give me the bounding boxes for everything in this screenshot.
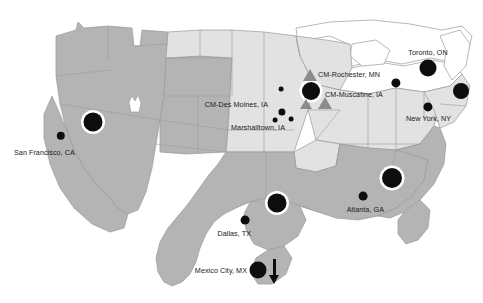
marker-nevada-hub[interactable]: [84, 113, 103, 132]
marker-louisiana-hub[interactable]: [268, 194, 287, 213]
label-new-york: New York, NY: [406, 114, 451, 123]
marker-atlanta[interactable]: [359, 192, 368, 201]
label-dallas: Dallas, TX: [217, 229, 251, 238]
mexico-direction-arrow-icon: [269, 259, 279, 285]
marker-dallas[interactable]: [241, 216, 250, 225]
marker-mexico-city[interactable]: [250, 262, 267, 279]
marker-carolina-hub[interactable]: [382, 168, 402, 188]
label-marshalltown: Marshalltown, IA: [231, 123, 285, 132]
label-atlanta: Atlanta, GA: [347, 205, 384, 214]
label-rochester: CM-Rochester, MN: [318, 70, 380, 79]
label-mexico-city: Mexico City, MX: [195, 266, 247, 275]
marker-new-england-hub[interactable]: [453, 83, 469, 99]
marker-rochester-mn-triangle[interactable]: [303, 69, 317, 81]
label-toronto: Toronto, ON: [408, 48, 447, 57]
label-san-francisco: San Francisco, CA: [14, 148, 75, 157]
marker-des-moines-a[interactable]: [279, 87, 284, 92]
arrow-head: [269, 275, 279, 284]
marker-muscatine-triangle-a[interactable]: [300, 99, 312, 109]
marker-toronto[interactable]: [420, 60, 437, 77]
marker-marshalltown-b[interactable]: [289, 117, 294, 122]
map-canvas: San Francisco, CA CM-Des Moines, IA Mars…: [0, 0, 483, 303]
marker-muscatine-triangle-b[interactable]: [318, 97, 332, 109]
label-des-moines: CM-Des Moines, IA: [205, 100, 268, 109]
label-muscatine: CM-Muscatine, IA: [325, 90, 383, 99]
